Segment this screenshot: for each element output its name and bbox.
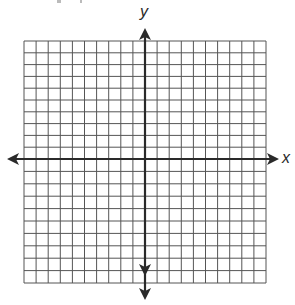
clipped-heading-fragment [57,0,82,3]
coordinate-plane [0,0,295,305]
x-axis-label: x [282,150,290,166]
y-axis-label: y [140,4,148,20]
